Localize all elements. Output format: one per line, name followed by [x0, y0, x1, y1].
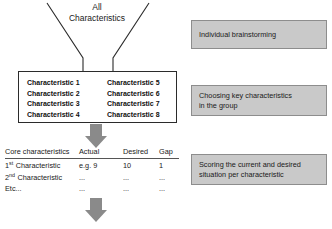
table-header-row: Core characteristics Actual Desired Gap [5, 147, 179, 158]
table-row: Etc... ... ... ... [5, 182, 179, 194]
table-row: 2nd Characteristic ... ... ... [5, 170, 179, 182]
note-line2: in the group [199, 101, 292, 111]
cell-characteristic-name: Etc... [5, 182, 79, 194]
cell-gap: ... [159, 170, 179, 182]
cell-desired: ... [123, 182, 159, 194]
cell-actual: ... [79, 182, 123, 194]
column-header-core-characteristics: Core characteristics [5, 147, 79, 158]
cell-gap: 1 [159, 158, 179, 170]
cell-gap: ... [159, 182, 179, 194]
characteristics-left-column: Characteristic 1 Characteristic 2 Charac… [27, 78, 80, 120]
list-item: Characteristic 4 [27, 110, 80, 121]
note-line1: Individual brainstorming [199, 30, 276, 40]
scoring-table: Core characteristics Actual Desired Gap … [5, 147, 179, 193]
cell-characteristic-name: 2nd Characteristic [5, 170, 79, 182]
column-header-actual: Actual [79, 147, 123, 158]
diagram-canvas: All Characteristics Characteristic 1 Cha… [0, 0, 332, 229]
funnel-title-line2: Characteristics [47, 13, 147, 24]
cell-desired: ... [123, 170, 159, 182]
characteristics-box: Characteristic 1 Characteristic 2 Charac… [18, 71, 177, 123]
characteristics-right-column: Characteristic 5 Characteristic 6 Charac… [107, 78, 160, 120]
table-row: 1st Characteristic e.g. 9 10 1 [5, 158, 179, 170]
down-arrow-icon [85, 198, 107, 222]
note-line2: situation per characteristic [199, 170, 301, 180]
note-line1: Scoring the current and desired [199, 160, 301, 170]
note-individual-brainstorming: Individual brainstorming [191, 20, 327, 49]
cell-desired: 10 [123, 158, 159, 170]
note-text: Scoring the current and desired situatio… [199, 160, 301, 180]
cell-characteristic-name: 1st Characteristic [5, 158, 79, 170]
list-item: Characteristic 8 [107, 110, 160, 121]
list-item: Characteristic 6 [107, 89, 160, 100]
list-item: Characteristic 5 [107, 78, 160, 89]
characteristic-label: Characteristic [18, 173, 63, 182]
cell-actual: ... [79, 170, 123, 182]
note-choosing-key-characteristics: Choosing key characteristics in the grou… [191, 85, 327, 116]
cell-actual: e.g. 9 [79, 158, 123, 170]
list-item: Characteristic 1 [27, 78, 80, 89]
list-item: Characteristic 3 [27, 99, 80, 110]
scoring-table-wrapper: Core characteristics Actual Desired Gap … [5, 147, 179, 193]
arrow-head [85, 210, 107, 222]
list-item: Characteristic 2 [27, 89, 80, 100]
characteristic-label: Etc... [5, 184, 22, 193]
characteristic-label: Characteristic [16, 161, 61, 170]
list-item: Characteristic 7 [107, 99, 160, 110]
note-text: Individual brainstorming [199, 30, 276, 40]
note-text: Choosing key characteristics in the grou… [199, 91, 292, 111]
column-header-desired: Desired [123, 147, 159, 158]
funnel-title: All Characteristics [47, 2, 147, 24]
note-line1: Choosing key characteristics [199, 91, 292, 101]
down-arrow-icon [85, 124, 107, 148]
column-header-gap: Gap [159, 147, 179, 158]
note-scoring-situation: Scoring the current and desired situatio… [191, 154, 327, 185]
funnel-title-line1: All [47, 2, 147, 13]
